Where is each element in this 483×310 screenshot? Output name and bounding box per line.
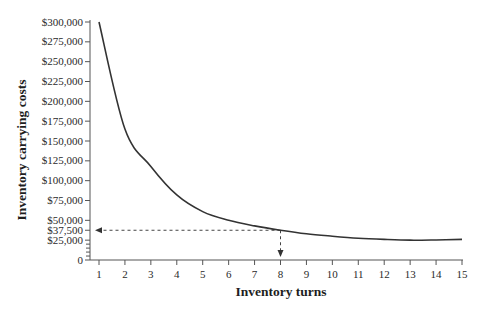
- y-tick-label: $75,000: [47, 194, 83, 206]
- x-tick-label: 4: [174, 268, 180, 280]
- data-series: [99, 22, 462, 240]
- x-tick-label: 11: [353, 268, 364, 280]
- y-tick-label: $125,000: [42, 154, 84, 166]
- y-tick-label: $250,000: [42, 55, 84, 67]
- y-tick-label: 0: [78, 254, 84, 266]
- annotations: [96, 230, 281, 256]
- x-tick-label: 9: [304, 268, 310, 280]
- y-tick-label: $275,000: [42, 35, 84, 47]
- x-tick-label: 15: [457, 268, 469, 280]
- x-tick-label: 6: [226, 268, 232, 280]
- y-tick-label: $300,000: [42, 16, 84, 28]
- x-tick-label: 8: [278, 268, 284, 280]
- carrying-cost-curve: [99, 22, 462, 240]
- x-tick-label: 1: [96, 268, 102, 280]
- x-tick-label: 3: [148, 268, 154, 280]
- x-tick-label: 10: [327, 268, 339, 280]
- y-tick-label: $200,000: [42, 95, 84, 107]
- y-tick-label: $100,000: [42, 174, 84, 186]
- line-chart: $300,000$275,000$250,000$225,000$200,000…: [0, 0, 483, 310]
- chart: $300,000$275,000$250,000$225,000$200,000…: [0, 0, 483, 310]
- x-tick-label: 14: [431, 268, 443, 280]
- y-tick-label: $225,000: [42, 75, 84, 87]
- x-tick-label: 7: [252, 268, 258, 280]
- y-tick-label: $175,000: [42, 115, 84, 127]
- x-tick-label: 5: [200, 268, 206, 280]
- x-tick-label: 2: [122, 268, 128, 280]
- x-tick-label: 12: [379, 268, 390, 280]
- y-tick-label: $25,000: [47, 234, 83, 246]
- y-axis-title: Inventory carrying costs: [14, 80, 29, 221]
- x-tick-label: 13: [405, 268, 417, 280]
- y-tick-label: $150,000: [42, 135, 84, 147]
- x-axis-title: Inventory turns: [235, 284, 326, 299]
- y-axis: $300,000$275,000$250,000$225,000$200,000…: [42, 16, 90, 266]
- x-axis: 123456789101112131415: [90, 260, 468, 280]
